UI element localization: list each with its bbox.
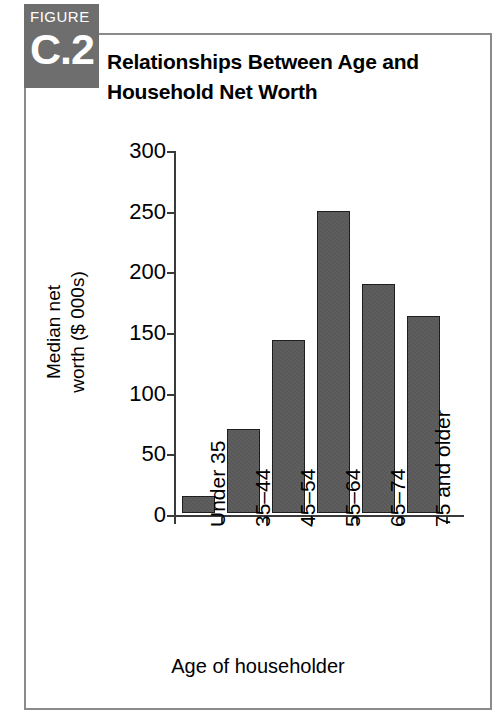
bar-chart: Median net worth ($ 000s) 05010015020025…: [24, 33, 492, 710]
figure-badge-word: FIGURE: [30, 9, 99, 25]
figure-badge-number: C.2: [30, 25, 99, 73]
y-axis-tick-label: 250: [106, 201, 166, 223]
x-axis-category-label: 75 and older: [432, 410, 453, 527]
figure-number-badge: FIGURE C.2: [24, 4, 99, 88]
y-axis-tick-mark: [167, 151, 174, 153]
y-axis-tick-mark: [167, 454, 174, 456]
y-axis-tick-mark: [167, 394, 174, 396]
x-axis-category-label: 65–74: [387, 469, 408, 527]
y-axis-tick-label: 50: [106, 443, 166, 465]
y-axis-tick-label: 0: [106, 504, 166, 526]
y-axis-tick-label: 200: [106, 261, 166, 283]
x-axis-category-label: Under 35: [207, 441, 228, 527]
y-axis-tick-mark: [167, 333, 174, 335]
y-axis-tick-mark: [167, 272, 174, 274]
y-axis-tick-mark: [167, 212, 174, 214]
y-axis-line: [174, 151, 176, 517]
y-axis-title: Median net worth ($ 000s): [42, 232, 90, 432]
y-axis-tick-mark: [167, 515, 174, 517]
x-axis-title: Age of householder: [24, 655, 492, 678]
x-axis-category-label: 55–64: [342, 469, 363, 527]
y-axis-tick-label: 100: [106, 383, 166, 405]
y-axis-tick-label: 300: [106, 140, 166, 162]
x-axis-category-label: 35–44: [252, 469, 273, 527]
x-axis-category-label: 45–54: [297, 469, 318, 527]
y-axis-tick-label: 150: [106, 322, 166, 344]
y-axis-tick-labels: 050100150200250300: [94, 33, 166, 710]
x-axis-tick-mark: [174, 517, 176, 524]
